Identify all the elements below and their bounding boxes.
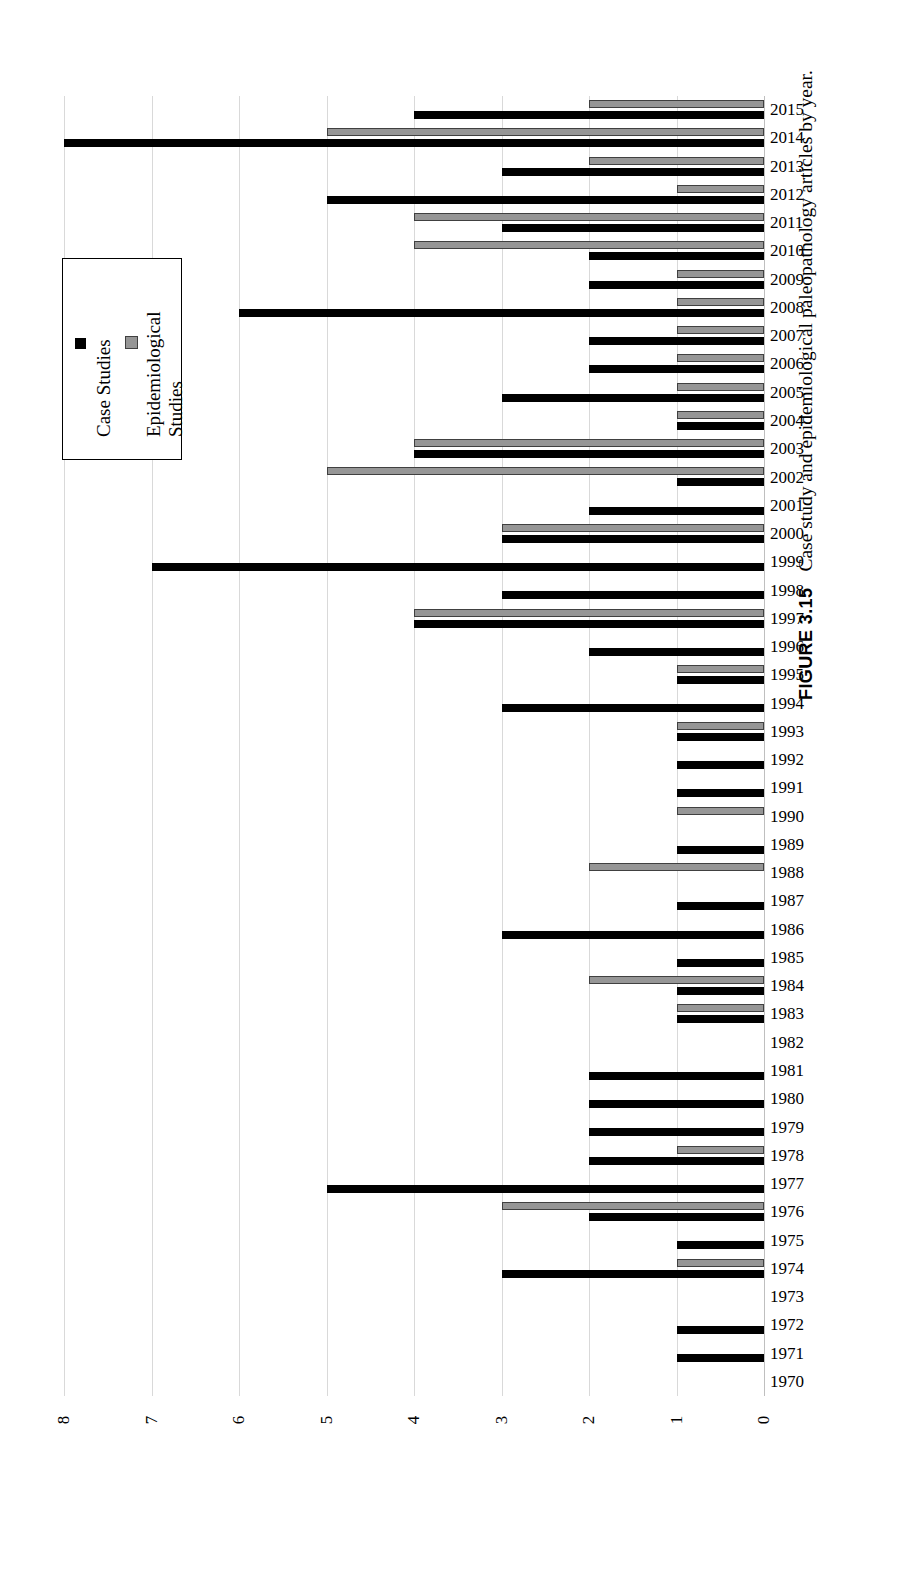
year-label-1979: 1979 <box>770 1119 828 1136</box>
year-label-1970: 1970 <box>770 1373 828 1390</box>
year-label-1981: 1981 <box>770 1062 828 1079</box>
bar-group-2002 <box>64 463 764 493</box>
bar-case-1997 <box>414 620 764 628</box>
bar-group-2011 <box>64 209 764 239</box>
bar-case-1976 <box>589 1213 764 1221</box>
bar-epidemiological-2003 <box>414 439 764 447</box>
bar-case-2007 <box>589 337 764 345</box>
bar-case-2013 <box>502 168 765 176</box>
bar-group-1980 <box>64 1085 764 1115</box>
bar-case-2004 <box>677 422 765 430</box>
bar-epidemiological-2011 <box>414 213 764 221</box>
bar-case-1999 <box>152 563 765 571</box>
bar-group-1982 <box>64 1029 764 1059</box>
value-tick-8: 8 <box>54 1407 74 1433</box>
bar-epidemiological-2012 <box>677 185 765 193</box>
bar-group-1992 <box>64 746 764 776</box>
bar-case-2003 <box>414 450 764 458</box>
bar-epidemiological-2010 <box>414 241 764 249</box>
year-label-1990: 1990 <box>770 808 828 825</box>
year-label-1992: 1992 <box>770 751 828 768</box>
bar-case-2002 <box>677 478 765 486</box>
bar-epidemiological-2015 <box>589 100 764 108</box>
value-tick-6: 6 <box>229 1407 249 1433</box>
year-label-1982: 1982 <box>770 1034 828 1051</box>
bar-group-1971 <box>64 1339 764 1369</box>
bar-group-1995 <box>64 661 764 691</box>
bar-case-1971 <box>677 1354 765 1362</box>
bar-case-1979 <box>589 1128 764 1136</box>
bar-group-1996 <box>64 633 764 663</box>
bar-case-1995 <box>677 676 765 684</box>
bar-epidemiological-2000 <box>502 524 765 532</box>
bar-case-1980 <box>589 1100 764 1108</box>
bar-group-1991 <box>64 774 764 804</box>
bar-epidemiological-1976 <box>502 1202 765 1210</box>
bar-case-2001 <box>589 507 764 515</box>
bar-group-1977 <box>64 1170 764 1200</box>
bar-epidemiological-1974 <box>677 1259 765 1267</box>
bar-group-2013 <box>64 153 764 183</box>
year-label-1985: 1985 <box>770 949 828 966</box>
bar-case-1985 <box>677 959 765 967</box>
bar-case-1993 <box>677 733 765 741</box>
value-tick-2: 2 <box>579 1407 599 1433</box>
bar-group-1979 <box>64 1113 764 1143</box>
bar-case-1977 <box>327 1185 765 1193</box>
bar-group-1970 <box>64 1368 764 1398</box>
bar-case-1987 <box>677 902 765 910</box>
year-label-1991: 1991 <box>770 779 828 796</box>
year-label-1972: 1972 <box>770 1316 828 1333</box>
bar-group-1975 <box>64 1226 764 1256</box>
figure-container: 2015201420132012201120102009200820072006… <box>0 0 898 1576</box>
bar-case-1975 <box>677 1241 765 1249</box>
bar-epidemiological-2014 <box>327 128 765 136</box>
year-label-1971: 1971 <box>770 1345 828 1362</box>
year-label-1989: 1989 <box>770 836 828 853</box>
bar-group-1985 <box>64 944 764 974</box>
bar-group-1981 <box>64 1057 764 1087</box>
bar-group-2000 <box>64 520 764 550</box>
bar-epidemiological-2006 <box>677 354 765 362</box>
bar-group-1999 <box>64 548 764 578</box>
bar-case-1984 <box>677 987 765 995</box>
bar-group-2015 <box>64 96 764 126</box>
bar-group-1972 <box>64 1311 764 1341</box>
gridline-0 <box>764 96 765 1396</box>
bar-epidemiological-2008 <box>677 298 765 306</box>
bar-group-1986 <box>64 916 764 946</box>
bar-group-2014 <box>64 124 764 154</box>
bar-epidemiological-2005 <box>677 383 765 391</box>
bar-case-1994 <box>502 704 765 712</box>
bar-case-2009 <box>589 281 764 289</box>
value-tick-3: 3 <box>492 1407 512 1433</box>
bar-epidemiological-1978 <box>677 1146 765 1154</box>
year-label-1976: 1976 <box>770 1203 828 1220</box>
bar-case-1978 <box>589 1157 764 1165</box>
bar-epidemiological-2004 <box>677 411 765 419</box>
year-label-1983: 1983 <box>770 1005 828 1022</box>
year-label-1975: 1975 <box>770 1232 828 1249</box>
bar-epidemiological-2009 <box>677 270 765 278</box>
bar-group-1978 <box>64 1142 764 1172</box>
bar-epidemiological-1983 <box>677 1004 765 1012</box>
value-tick-0: 0 <box>754 1407 774 1433</box>
year-label-1993: 1993 <box>770 723 828 740</box>
bar-case-1989 <box>677 846 765 854</box>
bar-epidemiological-1995 <box>677 665 765 673</box>
bar-group-1998 <box>64 576 764 606</box>
bar-group-1987 <box>64 887 764 917</box>
bar-group-1984 <box>64 972 764 1002</box>
bar-case-2000 <box>502 535 765 543</box>
bar-epidemiological-1990 <box>677 807 765 815</box>
legend-swatch-epidemiological-studies <box>125 336 138 349</box>
year-label-1978: 1978 <box>770 1147 828 1164</box>
bar-case-1986 <box>502 931 765 939</box>
year-label-1986: 1986 <box>770 921 828 938</box>
bar-case-2015 <box>414 111 764 119</box>
bar-case-2005 <box>502 394 765 402</box>
year-label-1977: 1977 <box>770 1175 828 1192</box>
bar-epidemiological-1988 <box>589 863 764 871</box>
bar-group-1989 <box>64 831 764 861</box>
bar-group-2001 <box>64 492 764 522</box>
